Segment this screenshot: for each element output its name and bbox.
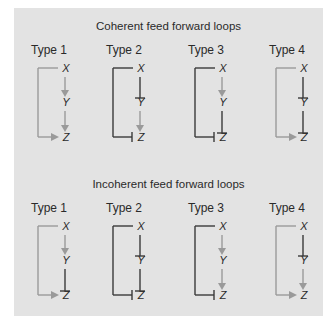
node-y-label: Y [219, 96, 227, 108]
node-z-label: Z [300, 131, 309, 143]
type-label: Type 1 [19, 201, 79, 215]
node-y-label: Y [137, 254, 145, 266]
node-x-label: X [136, 62, 145, 74]
node-x-label: X [299, 220, 308, 232]
node-x-label: X [299, 62, 308, 74]
node-z-label: Z [62, 289, 71, 301]
type-label: Type 2 [94, 43, 154, 57]
arrow-right-icon [51, 291, 59, 299]
node-x-label: X [218, 220, 227, 232]
node-y-label: Y [62, 96, 70, 108]
ffl-diagram: XYZ [273, 221, 323, 303]
ffl-diagram: XYZ [110, 63, 160, 145]
arrow-right-icon [51, 133, 59, 141]
type-label: Type 1 [19, 43, 79, 57]
node-z-label: Z [137, 131, 146, 143]
section-title: Incoherent feed forward loops [14, 178, 323, 190]
node-z-label: Z [300, 289, 309, 301]
node-x-label: X [61, 62, 70, 74]
type-label: Type 2 [94, 201, 154, 215]
arrow-right-icon [289, 291, 297, 299]
node-y-label: Y [137, 96, 145, 108]
section-title: Coherent feed forward loops [14, 20, 323, 32]
node-x-label: X [61, 220, 70, 232]
ffl-diagram: XYZ [110, 221, 160, 303]
ffl-diagram: XYZ [273, 63, 323, 145]
ffl-diagram: XYZ [192, 63, 242, 145]
type-label: Type 3 [176, 201, 236, 215]
node-z-label: Z [62, 131, 71, 143]
node-y-label: Y [300, 254, 308, 266]
node-y-label: Y [219, 254, 227, 266]
node-z-label: Z [219, 289, 228, 301]
node-y-label: Y [62, 254, 70, 266]
node-x-label: X [136, 220, 145, 232]
type-label: Type 4 [257, 43, 317, 57]
node-x-label: X [218, 62, 227, 74]
ffl-diagram: XYZ [35, 221, 85, 303]
type-label: Type 3 [176, 43, 236, 57]
ffl-diagram: XYZ [192, 221, 242, 303]
type-label: Type 4 [257, 201, 317, 215]
arrow-right-icon [289, 133, 297, 141]
ffl-diagram: XYZ [35, 63, 85, 145]
node-y-label: Y [300, 96, 308, 108]
node-z-label: Z [219, 131, 228, 143]
node-z-label: Z [137, 289, 146, 301]
